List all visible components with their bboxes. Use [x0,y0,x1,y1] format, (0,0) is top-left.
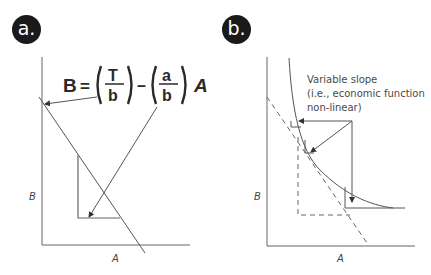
svg-text:b: b [108,87,118,104]
panel-b-x-label: A [336,253,344,264]
diagram-canvas: B = T b – a b A B A [0,0,431,275]
intercept-arrow [45,97,97,104]
slope-arrow [89,107,157,217]
budget-line [39,97,145,253]
panel-a-y-label: B [29,191,36,202]
variable-slope-annotation: Variable slope (i.e., economic function … [307,74,428,113]
panel-b-y-label: B [254,191,261,202]
svg-text:B: B [63,75,77,96]
svg-text:a: a [162,67,171,84]
svg-text:A: A [193,75,208,96]
svg-text:=: = [80,77,90,96]
svg-text:T: T [108,67,118,84]
svg-text:b: b [162,87,172,104]
panel-a: B = T b – a b A B A [29,57,208,264]
svg-text:–: – [137,77,146,94]
panel-a-x-label: A [111,253,119,264]
panel-b: Variable slope (i.e., economic function … [254,57,428,264]
upper-slope-step [291,121,301,127]
diagonal-arrow [311,121,352,152]
